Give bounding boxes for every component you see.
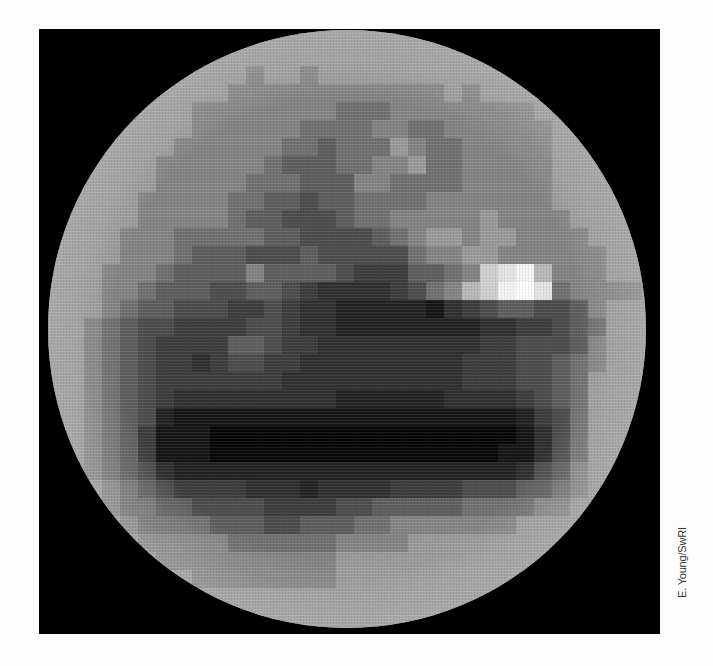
pixel-block xyxy=(624,552,642,570)
pixel-block xyxy=(552,606,570,624)
pixel-block xyxy=(408,624,426,628)
pixel-block xyxy=(210,30,228,48)
pixel-block xyxy=(606,606,624,624)
pixel-block xyxy=(624,498,642,516)
pixel-block xyxy=(624,138,642,156)
pixel-block xyxy=(498,624,516,628)
pixel-block xyxy=(642,408,646,426)
pixel-block xyxy=(642,534,646,552)
pixel-block xyxy=(570,534,588,552)
pixel-block xyxy=(624,588,642,606)
pixel-block xyxy=(480,30,498,48)
pixel-block xyxy=(534,588,552,606)
pixel-block xyxy=(66,552,84,570)
pixel-block xyxy=(120,48,138,66)
pixel-block xyxy=(66,138,84,156)
pixel-block xyxy=(48,120,66,138)
pixel-block xyxy=(84,534,102,552)
pixel-block xyxy=(570,552,588,570)
pixel-block xyxy=(102,120,120,138)
pixel-block xyxy=(534,66,552,84)
pixel-block xyxy=(246,624,264,628)
pixel-block xyxy=(642,120,646,138)
pixel-block xyxy=(156,66,174,84)
pixel-block xyxy=(588,120,606,138)
pixel-block xyxy=(102,66,120,84)
pixel-block xyxy=(588,102,606,120)
pixel-block xyxy=(552,624,570,628)
pixel-block xyxy=(570,84,588,102)
pixel-block xyxy=(588,570,606,588)
pixel-block xyxy=(444,30,462,48)
pixel-block xyxy=(444,624,462,628)
pixel-block xyxy=(642,228,646,246)
pixel-block xyxy=(84,102,102,120)
pixel-block xyxy=(210,624,228,628)
pixel-block xyxy=(48,174,66,192)
pixel-block xyxy=(462,624,480,628)
pixel-block xyxy=(48,588,66,606)
pixel-block xyxy=(48,480,66,498)
pixel-block xyxy=(102,552,120,570)
pixel-block xyxy=(588,30,606,48)
pixel-block xyxy=(48,444,66,462)
pixel-block xyxy=(48,426,66,444)
pixel-block xyxy=(138,606,156,624)
pixel-block xyxy=(516,66,534,84)
pixel-block xyxy=(66,624,84,628)
pixel-block xyxy=(642,210,646,228)
pixel-block xyxy=(264,624,282,628)
pixel-block xyxy=(624,174,642,192)
pixel-block xyxy=(282,624,300,628)
pixel-block xyxy=(66,84,84,102)
pixel-block xyxy=(624,156,642,174)
pixel-block xyxy=(66,480,84,498)
pixel-block xyxy=(552,570,570,588)
pixel-block xyxy=(642,264,646,282)
pixel-block xyxy=(102,588,120,606)
pixel-block xyxy=(534,30,552,48)
pixel-block xyxy=(66,498,84,516)
pixel-block xyxy=(174,624,192,628)
pixel-block xyxy=(462,30,480,48)
pixel-block xyxy=(624,102,642,120)
pixel-block xyxy=(48,210,66,228)
pixel-block xyxy=(138,48,156,66)
pixel-block xyxy=(642,174,646,192)
pixel-block xyxy=(642,606,646,624)
pixel-block xyxy=(516,48,534,66)
pixel-block xyxy=(138,84,156,102)
pixel-block xyxy=(84,84,102,102)
pixel-block xyxy=(48,516,66,534)
pixel-block xyxy=(516,606,534,624)
pixel-block xyxy=(120,30,138,48)
pixel-block xyxy=(588,552,606,570)
pixel-block xyxy=(66,588,84,606)
pixel-block xyxy=(156,48,174,66)
pixel-block xyxy=(174,30,192,48)
pixel-block xyxy=(588,516,606,534)
pixel-block xyxy=(174,48,192,66)
pixel-block xyxy=(480,606,498,624)
pixel-block xyxy=(120,66,138,84)
pixel-block xyxy=(606,588,624,606)
pixel-block xyxy=(624,444,642,462)
pixel-block xyxy=(642,570,646,588)
pixel-block xyxy=(48,48,66,66)
pixel-block xyxy=(138,570,156,588)
pixel-block xyxy=(570,102,588,120)
pixel-block xyxy=(390,624,408,628)
pixel-block xyxy=(624,570,642,588)
pixel-block xyxy=(48,84,66,102)
pixel-block xyxy=(192,30,210,48)
pixel-block xyxy=(606,624,624,628)
image-noise xyxy=(48,30,646,628)
pixel-block xyxy=(138,588,156,606)
pixel-block xyxy=(642,372,646,390)
pixel-block xyxy=(84,138,102,156)
pixel-block xyxy=(48,156,66,174)
pixel-block xyxy=(606,570,624,588)
pixel-block xyxy=(174,588,192,606)
pixel-block xyxy=(66,102,84,120)
pixel-block xyxy=(120,84,138,102)
